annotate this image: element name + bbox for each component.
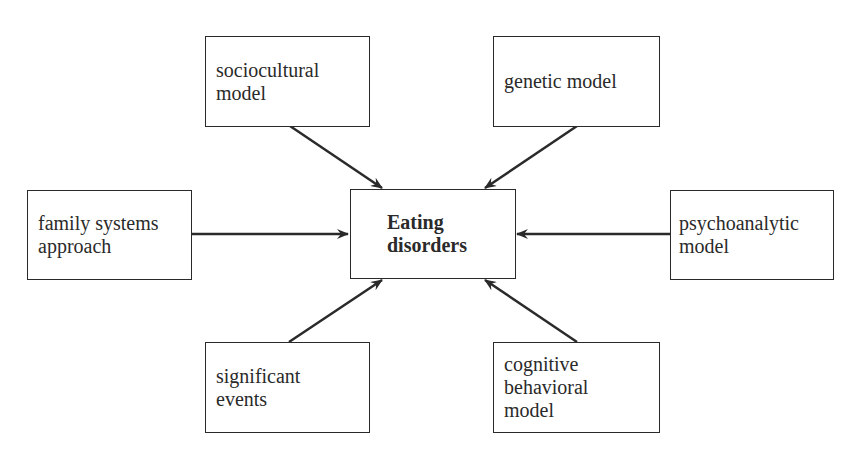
arrow-genetic-to-center [485, 126, 577, 188]
arrow-significant-to-center [289, 280, 382, 342]
arrow-cognitive-to-center [485, 280, 577, 342]
node-sociocultural-model: sociocultural model [205, 36, 370, 127]
node-label-line: model [216, 82, 359, 105]
node-label-line: approach [38, 235, 181, 258]
node-cognitive-behavioral-model: cognitive behavioral model [493, 342, 660, 433]
center-node-eating-disorders: Eating disorders [350, 189, 516, 279]
node-significant-events: significant events [205, 342, 370, 433]
center-label-line-2: disorders [387, 234, 505, 257]
node-label-line: cognitive [504, 353, 649, 376]
node-label-line: significant [216, 365, 359, 388]
node-genetic-model: genetic model [493, 36, 660, 127]
node-label-line: sociocultural [216, 59, 359, 82]
node-label-line: model [504, 399, 649, 422]
center-label-line-1: Eating [387, 211, 505, 234]
node-label-line: family systems [38, 212, 181, 235]
node-label-line: behavioral [504, 376, 649, 399]
node-label-line: model [679, 235, 823, 258]
node-label-line: psychoanalytic [679, 212, 823, 235]
node-family-systems-approach: family systems approach [27, 190, 192, 280]
arrow-sociocultural-to-center [290, 126, 382, 188]
node-label-line: genetic model [504, 70, 649, 93]
node-label-line: events [216, 388, 359, 411]
node-psychoanalytic-model: psychoanalytic model [670, 190, 834, 280]
